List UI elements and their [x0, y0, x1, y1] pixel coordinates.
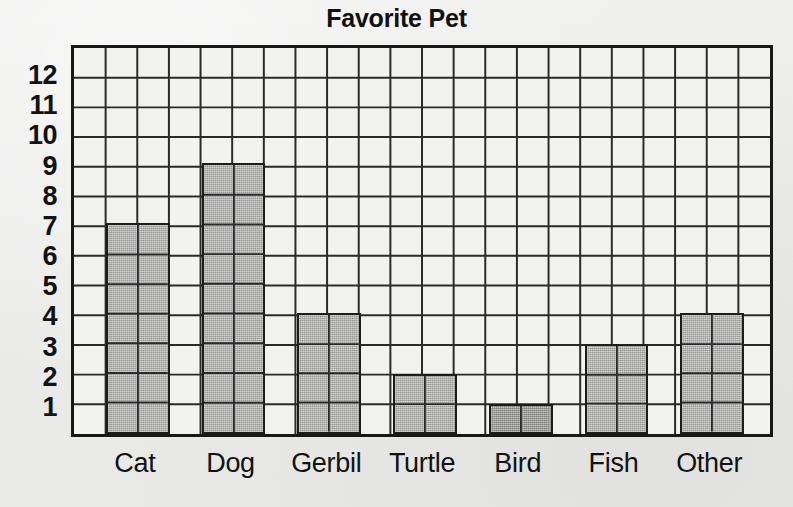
- y-axis-tick-labels: 123456789101112: [0, 0, 64, 507]
- bar-inner-grid: [108, 225, 168, 432]
- y-axis-label-5: 5: [42, 273, 57, 300]
- bar-cat: [106, 223, 170, 434]
- bar-inner-grid: [299, 315, 359, 432]
- bar-chart: Favorite Pet 123456789101112 CatDogGerbi…: [0, 0, 793, 507]
- bar-gerbil: [297, 313, 361, 434]
- y-axis-label-8: 8: [42, 182, 57, 209]
- y-axis-label-12: 12: [28, 62, 57, 89]
- bar-inner-grid: [395, 376, 455, 432]
- y-axis-label-1: 1: [42, 393, 57, 420]
- bar-dog: [202, 163, 266, 434]
- bar-fish: [585, 344, 649, 434]
- y-axis-label-11: 11: [29, 92, 57, 119]
- y-axis-label-4: 4: [42, 303, 57, 330]
- x-axis-label-other: Other: [649, 449, 769, 478]
- chart-title: Favorite Pet: [0, 4, 793, 33]
- y-axis-label-2: 2: [42, 363, 57, 390]
- bar-turtle: [393, 374, 457, 434]
- bar-other: [680, 313, 744, 434]
- y-axis-label-9: 9: [42, 152, 57, 179]
- y-axis-label-10: 10: [28, 122, 57, 149]
- bar-inner-grid: [491, 406, 551, 432]
- bar-inner-grid: [204, 165, 264, 432]
- y-axis-label-7: 7: [42, 212, 57, 239]
- bar-inner-grid: [587, 346, 647, 432]
- plot-area: [71, 45, 773, 437]
- y-axis-label-6: 6: [42, 243, 57, 270]
- x-axis-category-labels: CatDogGerbilTurtleBirdFishOther: [71, 449, 773, 495]
- bar-bird: [489, 404, 553, 434]
- bars-layer: [74, 48, 770, 434]
- bar-inner-grid: [682, 315, 742, 432]
- y-axis-label-3: 3: [42, 333, 57, 360]
